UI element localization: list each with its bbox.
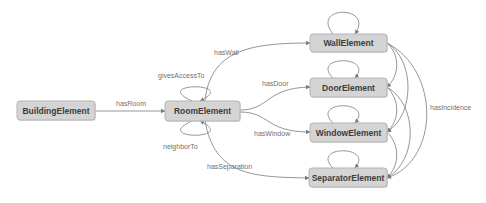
node-door-element[interactable]: DoorElement (310, 78, 388, 98)
node-label: SeparatorElement (312, 173, 385, 183)
edge-neighbor-to-loop (181, 121, 211, 135)
node-label: WindowElement (316, 128, 382, 138)
edge-has-door (240, 87, 310, 110)
label-has-wall: hasWall (214, 49, 239, 56)
label-has-door: hasDoor (262, 80, 289, 87)
label-has-window: hasWindow (254, 130, 291, 137)
label-gives-access-to: givesAccessTo (158, 72, 204, 80)
edge-door-self-loop (328, 61, 359, 78)
label-has-separation: hasSeparation (207, 163, 252, 171)
node-room-element[interactable]: RoomElement (165, 101, 241, 122)
node-label: RoomElement (174, 106, 231, 116)
node-label: BuildingElement (22, 106, 89, 116)
label-has-incidence: hasIncidence (430, 104, 471, 111)
node-label: DoorElement (322, 83, 375, 93)
edge-wall-self-loop (328, 12, 359, 34)
edge-has-window (240, 112, 310, 132)
edge-separator-self-loop (328, 151, 359, 168)
label-neighbor-to: neighborTo (163, 143, 198, 151)
edge-incidence-wall-separator (387, 43, 427, 178)
ontology-diagram: hasRoom givesAccessTo neighborTo hasWall… (0, 0, 486, 203)
node-window-element[interactable]: WindowElement (310, 123, 388, 143)
node-label: WallElement (323, 38, 373, 48)
node-building-element[interactable]: BuildingElement (17, 101, 96, 121)
edge-window-self-loop (328, 106, 359, 123)
node-wall-element[interactable]: WallElement (310, 34, 388, 53)
label-has-room: hasRoom (116, 100, 146, 107)
node-separator-element[interactable]: SeparatorElement (309, 168, 388, 188)
